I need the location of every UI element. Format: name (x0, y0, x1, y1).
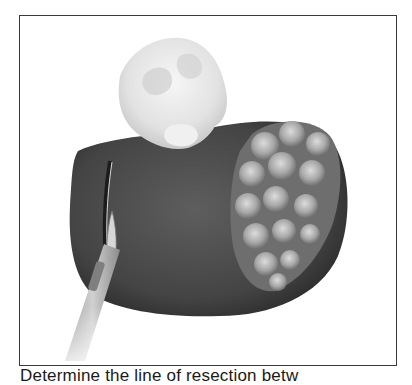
figure-frame (19, 15, 397, 366)
figure-caption: Determine the line of resection betw (20, 366, 298, 385)
hand (119, 38, 227, 149)
surgical-illustration (20, 16, 396, 365)
